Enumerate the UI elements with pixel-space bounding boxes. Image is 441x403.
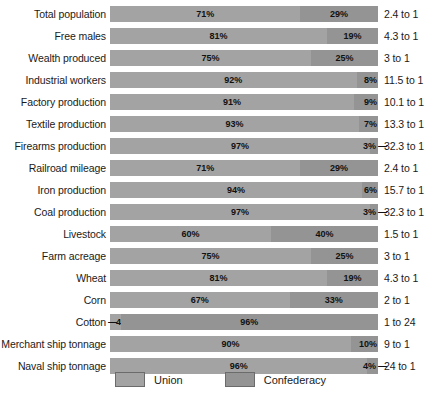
- row-bar: 81%19%: [110, 28, 378, 44]
- bar-value-union: 91%: [223, 94, 241, 110]
- bar-value-confederacy: 6%: [364, 182, 377, 198]
- row-ratio: 32.3 to 1: [378, 138, 441, 154]
- bar-segment-confederacy: 25%: [311, 50, 378, 66]
- row-label: Factory production: [0, 94, 110, 110]
- chart-row: Industrial workers92%8%11.5 to 1: [0, 72, 441, 88]
- bar-segment-union: 91%: [110, 94, 354, 110]
- bar-segment-union: 92%: [110, 72, 357, 88]
- bar-value-union: 71%: [196, 160, 214, 176]
- row-ratio: 11.5 to 1: [378, 72, 441, 88]
- bar-segment-confederacy: 29%: [300, 160, 378, 176]
- row-label: Cotton: [0, 314, 110, 330]
- row-label: Corn: [0, 292, 110, 308]
- bar-value-confederacy: 19%: [344, 28, 362, 44]
- chart-row: Wealth produced75%25%3 to 1: [0, 50, 441, 66]
- value-leader-dash-icon: —: [378, 204, 387, 220]
- chart-row: Textile production93%7%13.3 to 1: [0, 116, 441, 132]
- bar-value-union: 90%: [222, 336, 240, 352]
- row-ratio: 13.3 to 1: [378, 116, 441, 132]
- bar-segment-confederacy: 7%: [359, 116, 378, 132]
- bar-value-union: 71%: [196, 6, 214, 22]
- bar-value-confederacy: 29%: [330, 6, 348, 22]
- bar-segment-union: 93%: [110, 116, 359, 132]
- bar-segment-confederacy: 33%: [290, 292, 378, 308]
- legend-item-confederacy[interactable]: Confederacy: [225, 372, 326, 387]
- chart-row: Merchant ship tonnage90%10%9 to 1: [0, 336, 441, 352]
- bar-segment-confederacy: 19%: [327, 28, 378, 44]
- bar-segment-confederacy: 10%: [351, 336, 378, 352]
- bar-value-union: 60%: [181, 226, 199, 242]
- row-ratio: 10.1 to 1: [378, 94, 441, 110]
- row-label: Coal production: [0, 204, 110, 220]
- chart-row: Farm acreage75%25%3 to 1: [0, 248, 441, 264]
- bar-segment-confederacy: 25%: [311, 248, 378, 264]
- row-bar: 92%8%: [110, 72, 378, 88]
- bar-segment-union: 60%: [110, 226, 271, 242]
- row-bar: 75%25%: [110, 248, 378, 264]
- row-bar: 4%—96%: [110, 314, 378, 330]
- row-ratio: 15.7 to 1: [378, 182, 441, 198]
- chart-row: Corn67%33%2 to 1: [0, 292, 441, 308]
- row-ratio: 9 to 1: [378, 336, 441, 352]
- row-bar: 71%29%: [110, 6, 378, 22]
- chart-row: Factory production91%9%10.1 to 1: [0, 94, 441, 110]
- bar-value-confederacy: 3%: [363, 204, 376, 220]
- value-leader-dash-icon: —: [378, 138, 387, 154]
- row-ratio: 1.5 to 1: [378, 226, 441, 242]
- bar-segment-union: 94%: [110, 182, 362, 198]
- bar-segment-confederacy: 9%: [354, 94, 378, 110]
- chart-row: Livestock60%40%1.5 to 1: [0, 226, 441, 242]
- row-bar: 94%6%: [110, 182, 378, 198]
- row-bar: 81%19%: [110, 270, 378, 286]
- row-bar: 67%33%: [110, 292, 378, 308]
- chart-row: Firearms production97%3%—32.3 to 1: [0, 138, 441, 154]
- chart-row: Iron production94%6%15.7 to 1: [0, 182, 441, 198]
- bar-value-confederacy: 9%: [364, 94, 377, 110]
- row-bar: 75%25%: [110, 50, 378, 66]
- legend-item-union[interactable]: Union: [115, 372, 183, 387]
- legend-label-confederacy: Confederacy: [264, 374, 326, 386]
- bar-segment-confederacy: 29%: [300, 6, 378, 22]
- bar-segment-union: 67%: [110, 292, 290, 308]
- bar-segment-confederacy: 19%: [327, 270, 378, 286]
- row-ratio: 2.4 to 1: [378, 160, 441, 176]
- bar-value-confederacy: 10%: [359, 336, 377, 352]
- chart-row: Railroad mileage71%29%2.4 to 1: [0, 160, 441, 176]
- legend-swatch-union-icon: [115, 372, 145, 387]
- row-ratio: 3 to 1: [378, 50, 441, 66]
- bar-value-confederacy: 19%: [344, 270, 362, 286]
- bar-segment-confederacy: 8%: [357, 72, 378, 88]
- row-ratio: 2 to 1: [378, 292, 441, 308]
- chart-row: Free males81%19%4.3 to 1: [0, 28, 441, 44]
- bar-value-confederacy: 29%: [330, 160, 348, 176]
- row-ratio: 2.4 to 1: [378, 6, 441, 22]
- bar-segment-union: 75%: [110, 50, 311, 66]
- bar-value-union: 97%: [231, 138, 249, 154]
- bar-value-union: 93%: [226, 116, 244, 132]
- bar-segment-union: 4%—: [110, 314, 121, 330]
- bar-segment-union: 75%: [110, 248, 311, 264]
- bar-segment-union: 71%: [110, 6, 300, 22]
- row-label: Firearms production: [0, 138, 110, 154]
- row-label: Total population: [0, 6, 110, 22]
- bar-value-confederacy: 3%: [363, 138, 376, 154]
- row-ratio: 1 to 24: [378, 314, 441, 330]
- chart-row: Cotton4%—96%1 to 24: [0, 314, 441, 330]
- row-bar: 93%7%: [110, 116, 378, 132]
- row-label: Iron production: [0, 182, 110, 198]
- bar-segment-union: 97%: [110, 204, 370, 220]
- row-ratio: 4.3 to 1: [378, 270, 441, 286]
- row-ratio: 4.3 to 1: [378, 28, 441, 44]
- row-bar: 60%40%: [110, 226, 378, 242]
- row-bar: 71%29%: [110, 160, 378, 176]
- row-ratio: 32.3 to 1: [378, 204, 441, 220]
- row-label: Merchant ship tonnage: [0, 336, 110, 352]
- row-label: Free males: [0, 28, 110, 44]
- bar-value-confederacy: 25%: [335, 50, 353, 66]
- bar-value-union: 81%: [210, 28, 228, 44]
- bar-segment-confederacy: 40%: [271, 226, 378, 242]
- row-label: Railroad mileage: [0, 160, 110, 176]
- chart-rows: Total population71%29%2.4 to 1Free males…: [0, 6, 441, 380]
- bar-value-union: 75%: [201, 50, 219, 66]
- row-ratio: 3 to 1: [378, 248, 441, 264]
